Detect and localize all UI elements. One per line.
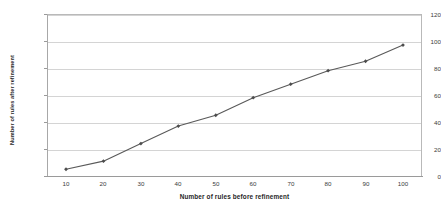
x-axis-title: Number of rules before refinement bbox=[47, 193, 422, 200]
series-line-number-of-rules-after-refinement bbox=[66, 45, 403, 169]
series-markers bbox=[64, 43, 405, 171]
data-point-marker bbox=[139, 142, 143, 146]
data-point-marker bbox=[64, 167, 68, 171]
data-point-marker bbox=[401, 43, 405, 47]
data-point-marker bbox=[176, 124, 180, 128]
line-chart: 120 100 80 60 40 20 0 10 20 30 40 50 60 … bbox=[0, 0, 441, 208]
data-point-marker bbox=[326, 69, 330, 73]
series-layer bbox=[0, 0, 441, 208]
data-point-marker bbox=[289, 82, 293, 86]
data-point-marker bbox=[214, 113, 218, 117]
data-point-marker bbox=[364, 59, 368, 63]
y-axis-title-container: Number of rules after refinement bbox=[0, 0, 30, 178]
y-axis-title: Number of rules after refinement bbox=[9, 50, 15, 150]
data-point-marker bbox=[251, 96, 255, 100]
data-point-marker bbox=[102, 159, 106, 163]
